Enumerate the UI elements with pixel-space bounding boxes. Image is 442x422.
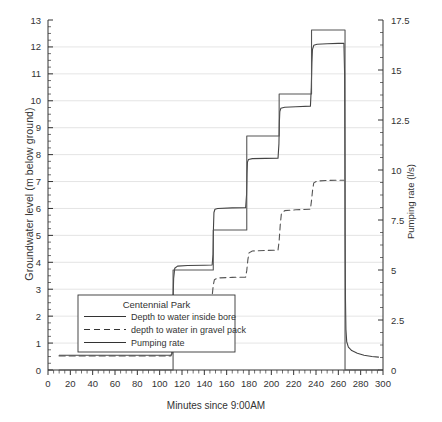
- y-tick-label-left: 3: [36, 284, 41, 295]
- x-tick-label: 160: [219, 378, 235, 389]
- y-tick-label-right: 7.5: [391, 215, 404, 226]
- y-tick-label-left: 5: [36, 230, 41, 241]
- y-tick-label-left: 0: [36, 365, 41, 376]
- x-tick-label: 260: [330, 378, 346, 389]
- chart-figure: Groundwater level (m below ground) Pumpi…: [0, 0, 442, 422]
- x-tick-label: 280: [353, 378, 369, 389]
- legend-title: Centennial Park: [123, 299, 191, 310]
- y-tick-label-left: 9: [36, 122, 41, 133]
- y-tick-label-right: 2.5: [391, 315, 404, 326]
- y-tick-label-right: 15: [391, 65, 402, 76]
- x-tick-label: 120: [174, 378, 190, 389]
- x-tick-label: 300: [375, 378, 391, 389]
- y-tick-label-left: 7: [36, 176, 41, 187]
- y-tick-label-left: 4: [36, 257, 41, 268]
- x-axis-title: Minutes since 9:00AM: [48, 400, 384, 411]
- x-tick-label: 20: [65, 378, 76, 389]
- y-tick-label-right: 10: [391, 165, 402, 176]
- y-tick-label-right: 0: [391, 365, 396, 376]
- plot-area: 012345678910111213 02.557.51012.51517.5 …: [0, 0, 442, 422]
- x-axis-ticks: 0204060801001201401601802002202402602803…: [45, 370, 391, 389]
- legend-label-0: Depth to water inside bore: [131, 312, 236, 322]
- y-tick-label-left: 13: [30, 15, 41, 26]
- y-tick-label-right: 5: [391, 265, 396, 276]
- x-tick-label: 100: [152, 378, 168, 389]
- y-axis-title-left: Groundwater level (m below ground): [23, 69, 35, 319]
- x-tick-label: 80: [132, 378, 143, 389]
- x-tick-label: 200: [263, 378, 279, 389]
- x-tick-label: 220: [286, 378, 302, 389]
- y-tick-label-left: 6: [36, 203, 41, 214]
- x-tick-label: 40: [87, 378, 98, 389]
- chart-legend[interactable]: Centennial ParkDepth to water inside bor…: [78, 295, 247, 352]
- x-tick-label: 60: [110, 378, 121, 389]
- y-tick-label-left: 2: [36, 311, 41, 322]
- x-tick-label: 240: [308, 378, 324, 389]
- y-tick-label-left: 1: [36, 338, 41, 349]
- legend-label-1: depth to water in gravel pack: [131, 325, 247, 335]
- x-tick-label: 180: [241, 378, 257, 389]
- y-tick-label-left: 12: [30, 41, 41, 52]
- y-tick-label-left: 8: [36, 149, 41, 160]
- x-tick-label: 0: [45, 378, 50, 389]
- y-axis-title-right: Pumping rate (l/s): [405, 122, 416, 282]
- x-tick-label: 140: [196, 378, 212, 389]
- y-tick-label-right: 17.5: [391, 15, 410, 26]
- legend-label-2: Pumping rate: [131, 338, 185, 348]
